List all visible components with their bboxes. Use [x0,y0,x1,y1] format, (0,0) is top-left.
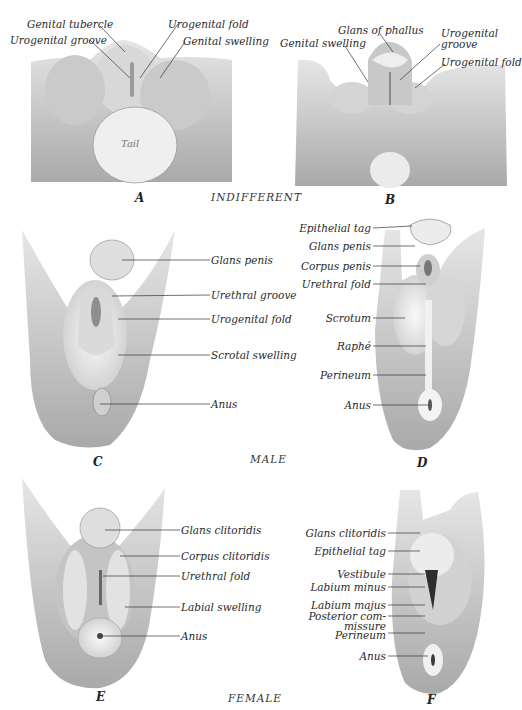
label-f-glans-clitoridis: Glans clitoridis [306,527,386,539]
label-d-scrotum: Scrotum [326,312,371,324]
label-c-urethral-groove: Urethral groove [211,289,297,301]
label-d-corpus-penis: Corpus penis [301,260,371,272]
label-f-labium-minus: Labium minus [310,581,386,593]
label-d-glans-penis: Glans penis [309,240,371,252]
label-e-glans-clitoridis: Glans clitoridis [181,524,261,536]
label-a-urogenital-groove: Urogenital groove [10,34,107,46]
panel-c-drawing [22,230,175,448]
label-e-urethral-fold: Urethral fold [181,570,250,582]
label-d-perineum: Perineum [320,369,371,381]
label-f-perineum: Perineum [335,629,386,641]
panel-letter-f: F [427,693,436,707]
label-b-groove: groove [441,38,478,50]
label-d-raphe: Raphé [337,340,371,352]
panel-letter-c: C [93,455,103,469]
panel-a-drawing [31,40,232,183]
label-b-genital-swelling: Genital swelling [280,37,366,49]
panel-letter-e: E [96,690,105,704]
label-a-urogenital-fold: Urogenital fold [168,18,249,30]
label-d-epithelial-tag: Epithelial tag [299,222,371,234]
label-c-scrotal-swelling: Scrotal swelling [211,349,297,361]
section-caption-female: FEMALE [228,692,282,704]
label-f-vestibule: Vestibule [337,568,386,580]
label-c-glans-penis: Glans penis [211,254,273,266]
section-caption-indifferent: INDIFFERENT [211,191,302,203]
label-d-urethral-fold: Urethral fold [302,278,371,290]
panel-letter-a: A [135,191,144,205]
label-a-genital-swelling: Genital swelling [183,35,269,47]
label-a-tail: Tail [121,138,139,150]
label-f-epithelial-tag: Epithelial tag [314,545,386,557]
label-e-labial-swelling: Labial swelling [181,601,261,613]
label-b-glans-of-phallus: Glans of phallus [338,24,424,36]
label-e-corpus-clitoridis: Corpus clitoridis [181,550,270,562]
section-caption-male: MALE [250,453,287,465]
label-c-anus: Anus [211,398,238,410]
panel-letter-b: B [385,193,395,207]
label-d-anus: Anus [345,399,372,411]
label-b-urogenital-fold: Urogenital fold [441,56,522,68]
panel-e-drawing [22,478,165,688]
panel-letter-d: D [417,456,427,470]
panel-d-drawing [375,219,485,450]
label-f-anus: Anus [360,650,387,662]
panel-f-drawing [392,490,485,694]
label-a-genital-tubercle: Genital tubercle [27,18,113,30]
label-e-anus: Anus [181,630,208,642]
label-c-urogenital-fold: Urogenital fold [211,313,292,325]
